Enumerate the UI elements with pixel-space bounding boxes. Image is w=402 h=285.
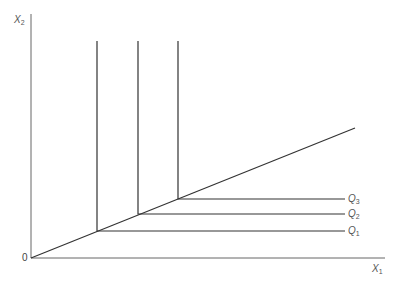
isoquant-diagram	[0, 0, 402, 285]
y-axis-label-sub: 2	[21, 19, 25, 26]
q2-label-main: Q	[348, 208, 356, 219]
x-axis-label-sub: 1	[379, 268, 383, 275]
y-axis-label: X2	[14, 15, 25, 28]
y-axis-label-main: X	[14, 14, 21, 25]
isoquant-q3-label: Q3	[348, 194, 360, 207]
isoquant-q2-label: Q2	[348, 209, 360, 222]
expansion-path-line	[31, 128, 355, 258]
isoquant-q2	[138, 41, 345, 214]
isoquant-q1	[97, 41, 345, 231]
q1-label-main: Q	[348, 225, 356, 236]
isoquant-q3	[178, 41, 345, 199]
origin-label: 0	[22, 252, 28, 263]
x-axis-label-main: X	[372, 263, 379, 274]
q3-label-sub: 3	[356, 198, 360, 205]
x-axis-label: X1	[372, 264, 383, 277]
q3-label-main: Q	[348, 193, 356, 204]
q1-label-sub: 1	[356, 230, 360, 237]
q2-label-sub: 2	[356, 213, 360, 220]
isoquant-q1-label: Q1	[348, 226, 360, 239]
